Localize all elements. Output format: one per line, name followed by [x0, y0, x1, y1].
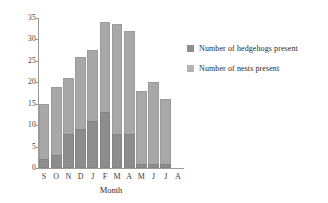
x-axis-tick-labels: SONDJFMAMJJA	[38, 172, 184, 184]
y-axis-tick-label: 20	[6, 78, 36, 86]
bar-group	[124, 18, 135, 168]
bar-group	[39, 18, 50, 168]
bar-group	[148, 18, 159, 168]
bar-nests	[160, 99, 171, 168]
hedgehog-nest-bar-chart: 05101520253035 SONDJFMAMJJA Month Number…	[0, 0, 328, 203]
x-axis-line	[38, 168, 184, 169]
y-axis-tick-label: 0	[6, 164, 36, 172]
bar-nests	[148, 82, 159, 168]
bar-group	[51, 18, 62, 168]
bar-hedgehogs	[87, 121, 98, 168]
bar-group	[87, 18, 98, 168]
bar-hedgehogs	[63, 134, 74, 168]
bar-hedgehogs	[124, 134, 135, 168]
x-axis-tick-label: J	[160, 172, 172, 182]
x-axis-tick-label: A	[123, 172, 135, 182]
bar-hedgehogs	[51, 155, 62, 168]
y-axis-tick-label: 25	[6, 57, 36, 65]
bar-group	[63, 18, 74, 168]
bar-group	[136, 18, 147, 168]
bar-group	[173, 18, 184, 168]
bar-hedgehogs	[136, 164, 147, 168]
x-axis-tick-label: D	[75, 172, 87, 182]
x-axis-title: Month	[38, 185, 184, 195]
x-axis-tick-label: J	[87, 172, 99, 182]
x-axis-tick-label: M	[111, 172, 123, 182]
legend-item-hedgehogs: Number of hedgehogs present	[187, 44, 298, 53]
y-axis-tick-label: 35	[6, 14, 36, 22]
x-axis-tick-label: O	[50, 172, 62, 182]
x-axis-tick-label: N	[62, 172, 74, 182]
y-axis-tick-label: 10	[6, 121, 36, 129]
x-axis-tick-label: F	[99, 172, 111, 182]
x-axis-tick-label: A	[172, 172, 184, 182]
bar-hedgehogs	[100, 112, 111, 168]
legend-swatch-nests-icon	[187, 65, 194, 72]
y-axis-tick-label: 5	[6, 143, 36, 151]
bar-nests	[136, 91, 147, 168]
bars-container	[38, 18, 184, 168]
x-axis-tick-label: M	[135, 172, 147, 182]
y-axis-tick-label: 15	[6, 100, 36, 108]
bar-nests	[39, 104, 50, 168]
bar-group	[75, 18, 86, 168]
legend-swatch-hedgehogs-icon	[187, 45, 194, 52]
y-axis-tick-label: 30	[6, 35, 36, 43]
legend-label-nests: Number of nests present	[199, 64, 279, 73]
x-axis-tick-label: S	[38, 172, 50, 182]
bar-group	[160, 18, 171, 168]
x-axis-tick-label: J	[148, 172, 160, 182]
bar-hedgehogs	[75, 129, 86, 168]
y-axis: 05101520253035	[0, 0, 36, 203]
legend-item-nests: Number of nests present	[187, 64, 298, 73]
chart-legend: Number of hedgehogs present Number of ne…	[187, 44, 298, 84]
bar-hedgehogs	[112, 134, 123, 168]
bar-hedgehogs	[160, 164, 171, 168]
bar-hedgehogs	[39, 159, 50, 168]
bar-hedgehogs	[148, 164, 159, 168]
legend-label-hedgehogs: Number of hedgehogs present	[199, 44, 298, 53]
bar-group	[112, 18, 123, 168]
bar-group	[100, 18, 111, 168]
